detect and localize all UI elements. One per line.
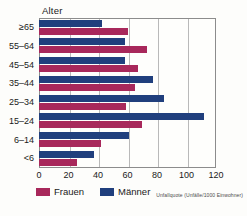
bars-layer [39,18,216,168]
x-axis-tick-label: 80 [152,170,162,180]
y-axis-title: Alter [42,5,63,16]
bar-frauen [39,46,147,53]
y-axis-tick-label: 55–64 [0,37,37,56]
bar-maenner [39,57,125,64]
y-axis-tick-label: <6 [0,149,37,168]
legend: FrauenMänner [36,186,159,197]
bar-maenner [39,95,164,102]
y-axis-tick-label: 45–54 [0,56,37,75]
y-axis-tick-label: 15–24 [0,112,37,131]
x-axis-tick-label: 0 [36,170,41,180]
x-axis-tick-label: 100 [179,170,194,180]
legend-item: Frauen [36,186,84,197]
y-axis-tick-label: 6–14 [0,131,37,150]
bar-maenner [39,151,94,158]
bar-maenner [39,38,125,45]
y-axis-tick-label: ≥65 [0,18,37,37]
legend-item: Männer [100,186,150,197]
x-axis-tick-label: 120 [208,170,223,180]
bar-frauen [39,28,128,35]
y-axis-tick-label: 35–44 [0,74,37,93]
bar-frauen [39,84,135,91]
legend-swatch [36,188,50,196]
x-axis-tick-label: 20 [63,170,73,180]
bar-group [39,37,216,56]
bar-frauen [39,65,138,72]
bar-frauen [39,159,77,166]
bar-maenner [39,113,204,120]
bar-maenner [39,132,129,139]
bar-frauen [39,103,126,110]
bar-group [39,149,216,168]
y-axis-tick-label: 25–34 [0,93,37,112]
legend-label: Männer [118,186,150,197]
x-axis-tick-label: 40 [93,170,103,180]
y-axis-tick-labels: ≥6555–6445–5435–4425–3415–246–14<6 [0,18,37,168]
x-axis-tick-label: 60 [122,170,132,180]
x-axis-tick-labels: 020406080100120 [39,170,216,182]
bar-group [39,93,216,112]
accident-rate-bar-chart: Alter ≥6555–6445–5435–4425–3415–246–14<6… [0,0,247,216]
bar-group [39,131,216,150]
bar-frauen [39,121,142,128]
bar-maenner [39,76,153,83]
bar-group [39,18,216,37]
legend-swatch [100,188,114,196]
footnote-text: Unfallquote (Unfälle/1000 Einwohner) [156,192,243,198]
bar-group [39,56,216,75]
bar-frauen [39,140,101,147]
bar-group [39,112,216,131]
bar-maenner [39,20,102,27]
legend-label: Frauen [54,186,84,197]
bar-group [39,74,216,93]
